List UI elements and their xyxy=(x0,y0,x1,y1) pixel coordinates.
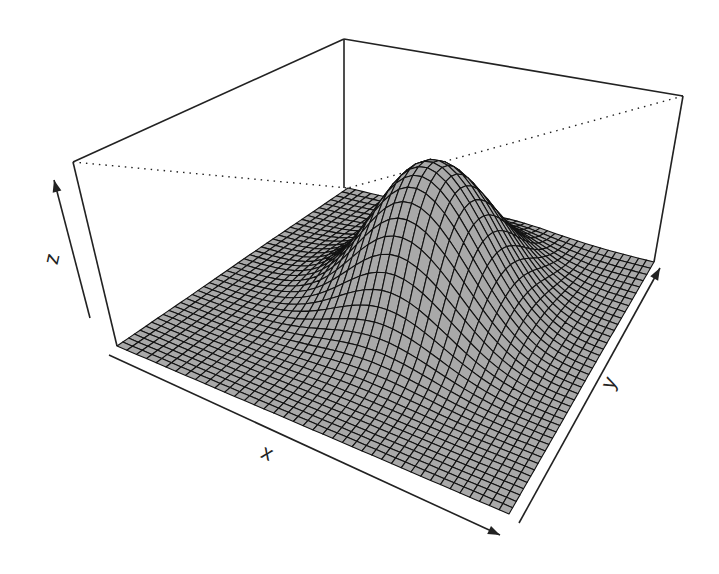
surface-mesh xyxy=(117,159,654,514)
surface-plot: x y z xyxy=(0,0,719,574)
y-axis-label: y xyxy=(596,372,621,392)
z-axis-label: z xyxy=(39,251,64,266)
x-axis-label: x xyxy=(258,440,277,465)
